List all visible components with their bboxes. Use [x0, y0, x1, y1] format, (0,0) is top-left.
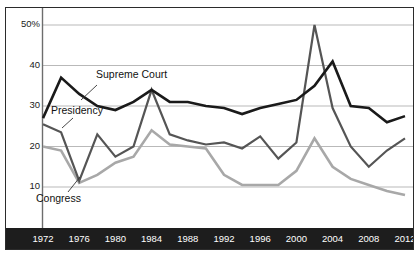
leader-line-congress — [68, 177, 80, 192]
y-tick-label-20: 20 — [6, 141, 40, 151]
x-tick-label-1984: 1984 — [132, 233, 172, 244]
x-tick-label-2008: 2008 — [349, 233, 389, 244]
series-label-presidency: Presidency — [51, 104, 103, 116]
y-tick-label-30: 30 — [6, 100, 40, 110]
x-tick-label-2012: 2012 — [385, 233, 413, 244]
y-tick-label-10: 10 — [6, 181, 40, 191]
x-tick-label-1996: 1996 — [240, 233, 280, 244]
x-tick-label-1972: 1972 — [23, 233, 63, 244]
x-tick-label-2004: 2004 — [313, 233, 353, 244]
y-axis-tick-labels: 1020304050% — [2, 0, 40, 253]
x-axis-band: 1972197619801984198819921996200020042008… — [6, 228, 413, 249]
x-tick-label-1988: 1988 — [168, 233, 208, 244]
x-tick-label-1980: 1980 — [95, 233, 135, 244]
x-tick-label-1992: 1992 — [204, 233, 244, 244]
leader-line-supreme-court — [81, 85, 97, 100]
series-label-supreme-court: Supreme Court — [96, 68, 167, 80]
x-tick-label-2000: 2000 — [276, 233, 316, 244]
series-label-congress: Congress — [36, 192, 81, 204]
y-tick-label-40: 40 — [6, 60, 40, 70]
series-line-congress — [43, 130, 405, 195]
chart-figure: 1020304050% 1972197619801984198819921996… — [0, 0, 419, 253]
chart-plot-area — [0, 0, 419, 253]
leader-line-presidency — [62, 118, 73, 128]
y-tick-label-50: 50% — [6, 19, 40, 29]
x-tick-label-1976: 1976 — [59, 233, 99, 244]
